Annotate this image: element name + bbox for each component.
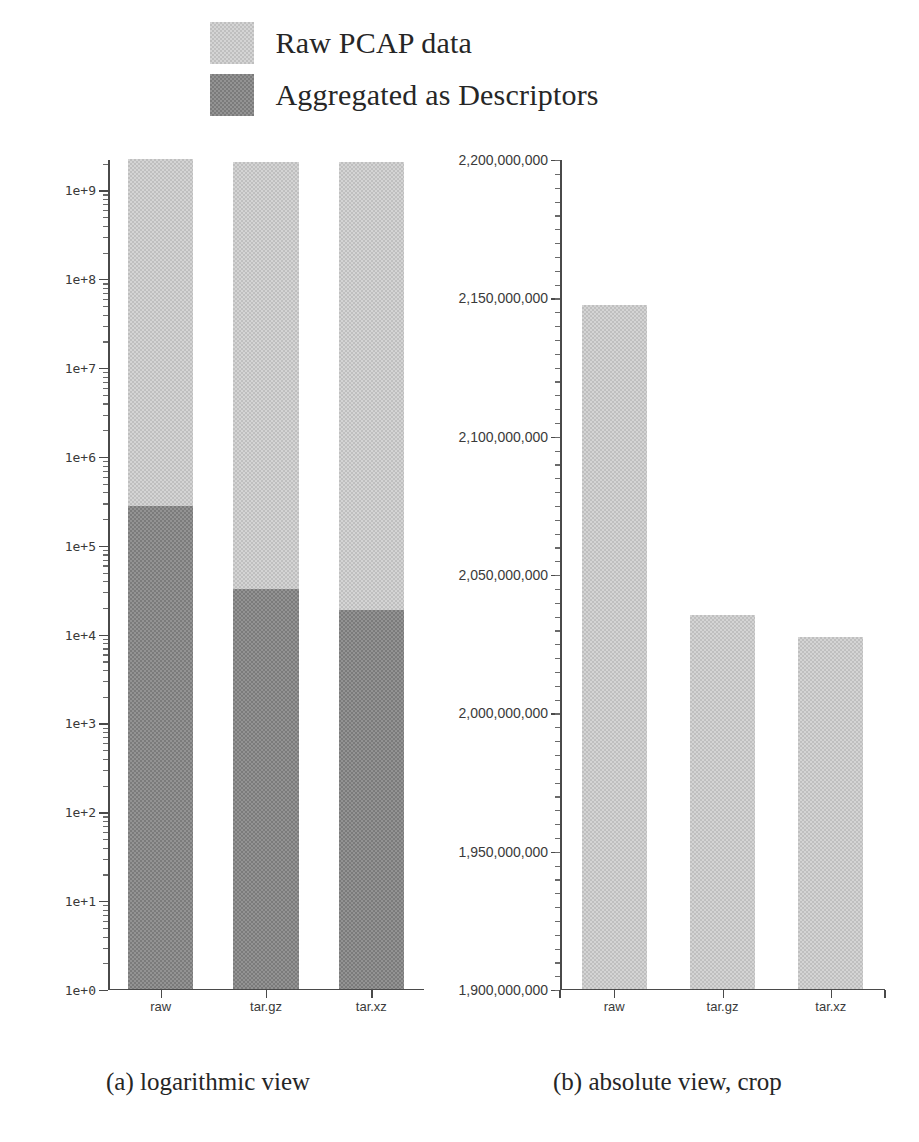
caption-absolute-view: (b) absolute view, crop bbox=[553, 1068, 782, 1096]
legend-item-raw-pcap-data: Raw PCAP data bbox=[210, 22, 710, 64]
y-tick-minor bbox=[103, 565, 108, 566]
y-tick-minor bbox=[555, 312, 560, 313]
y-tick-minor bbox=[555, 741, 560, 742]
y-tick-minor bbox=[103, 341, 108, 342]
y-tick-label: 1,950,000,000 bbox=[458, 844, 548, 860]
y-tick-minor bbox=[103, 415, 108, 416]
y-tick-label: 1e+8 bbox=[65, 272, 96, 287]
y-tick-minor bbox=[555, 492, 560, 493]
x-tick-mark bbox=[371, 990, 372, 998]
y-tick-minor bbox=[103, 661, 108, 662]
y-tick-minor bbox=[555, 298, 560, 299]
bar-segment-aggregated bbox=[233, 589, 298, 988]
y-axis-line-absolute bbox=[560, 160, 562, 990]
y-tick-label: 2,150,000,000 bbox=[458, 290, 548, 306]
y-tick-minor bbox=[555, 326, 560, 327]
y-tick-minor bbox=[103, 217, 108, 218]
y-tick-minor bbox=[555, 368, 560, 369]
y-tick-minor bbox=[555, 354, 560, 355]
y-tick-minor bbox=[103, 816, 108, 817]
y-tick-minor bbox=[555, 810, 560, 811]
y-tick-minor bbox=[103, 306, 108, 307]
y-tick-minor bbox=[103, 519, 108, 520]
y-tick-minor bbox=[555, 630, 560, 631]
y-tick-minor bbox=[103, 697, 108, 698]
y-tick-minor bbox=[103, 937, 108, 938]
y-tick-minor bbox=[555, 215, 560, 216]
y-tick-minor bbox=[103, 654, 108, 655]
bar-segment-aggregated bbox=[339, 610, 404, 988]
y-tick-minor bbox=[103, 466, 108, 467]
y-tick-minor bbox=[555, 437, 560, 438]
y-tick-minor bbox=[103, 839, 108, 840]
y-tick-minor bbox=[103, 461, 108, 462]
bar-raw bbox=[582, 305, 647, 988]
y-tick-minor bbox=[103, 326, 108, 327]
y-tick-minor bbox=[103, 581, 108, 582]
y-tick-label: 2,050,000,000 bbox=[458, 567, 548, 583]
y-tick-minor bbox=[103, 963, 108, 964]
y-tick-minor bbox=[555, 976, 560, 977]
subplot-logarithmic-view: 1e+01e+11e+21e+31e+41e+51e+61e+71e+81e+9… bbox=[24, 150, 434, 1050]
y-tick-minor bbox=[555, 783, 560, 784]
y-axis-line-logarithmic bbox=[108, 160, 110, 990]
y-tick-minor bbox=[103, 395, 108, 396]
y-tick-minor bbox=[103, 770, 108, 771]
y-tick-minor bbox=[103, 492, 108, 493]
y-tick-label: 2,200,000,000 bbox=[458, 152, 548, 168]
y-tick-minor bbox=[555, 672, 560, 673]
figure-pcap-storage-comparison: Raw PCAP data Aggregated as Descriptors … bbox=[0, 0, 919, 1142]
legend-label-raw: Raw PCAP data bbox=[276, 26, 473, 60]
y-tick-minor bbox=[555, 464, 560, 465]
y-tick-minor bbox=[555, 534, 560, 535]
y-tick-minor bbox=[555, 949, 560, 950]
x-tick-label-raw: raw bbox=[150, 999, 171, 1014]
y-tick-minor bbox=[555, 769, 560, 770]
y-tick-minor bbox=[555, 686, 560, 687]
y-tick-minor bbox=[103, 372, 108, 373]
y-tick-minor bbox=[555, 893, 560, 894]
y-tick-major bbox=[99, 546, 108, 547]
y-tick-minor bbox=[555, 824, 560, 825]
y-tick-label: 1e+3 bbox=[65, 716, 96, 731]
plot-area-absolute: 1,900,000,0001,950,000,0002,000,000,0002… bbox=[560, 160, 885, 990]
y-tick-minor bbox=[103, 554, 108, 555]
bar-tar.xz bbox=[339, 162, 404, 989]
y-tick-minor bbox=[555, 257, 560, 258]
y-tick-minor bbox=[103, 728, 108, 729]
y-tick-label: 1e+9 bbox=[65, 183, 96, 198]
y-tick-minor bbox=[103, 293, 108, 294]
y-tick-minor bbox=[103, 928, 108, 929]
y-tick-label: 2,000,000,000 bbox=[458, 705, 548, 721]
y-tick-minor bbox=[103, 403, 108, 404]
y-tick-minor bbox=[103, 826, 108, 827]
y-tick-minor bbox=[103, 732, 108, 733]
y-tick-minor bbox=[103, 237, 108, 238]
y-tick-minor bbox=[103, 382, 108, 383]
y-tick-label: 1e+5 bbox=[65, 538, 96, 553]
y-tick-major bbox=[99, 812, 108, 813]
bar-tar.gz bbox=[233, 162, 298, 989]
y-tick-minor bbox=[103, 503, 108, 504]
y-tick-minor bbox=[555, 174, 560, 175]
y-tick-minor bbox=[103, 648, 108, 649]
y-tick-minor bbox=[555, 575, 560, 576]
y-tick-major bbox=[99, 635, 108, 636]
bar-segment-aggregated bbox=[128, 506, 193, 989]
y-tick-minor bbox=[103, 905, 108, 906]
caption-logarithmic-view: (a) logarithmic view bbox=[106, 1068, 310, 1096]
chart-legend: Raw PCAP data Aggregated as Descriptors bbox=[0, 22, 919, 116]
y-tick-minor bbox=[555, 285, 560, 286]
y-tick-minor bbox=[555, 589, 560, 590]
y-tick-minor bbox=[103, 915, 108, 916]
y-tick-major bbox=[99, 368, 108, 369]
y-tick-label: 1,900,000,000 bbox=[458, 982, 548, 998]
y-tick-minor bbox=[555, 603, 560, 604]
y-tick-minor bbox=[103, 199, 108, 200]
y-tick-minor bbox=[103, 430, 108, 431]
y-tick-minor bbox=[555, 506, 560, 507]
y-tick-minor bbox=[103, 315, 108, 316]
y-tick-minor bbox=[555, 547, 560, 548]
y-tick-minor bbox=[103, 377, 108, 378]
y-tick-minor bbox=[555, 935, 560, 936]
